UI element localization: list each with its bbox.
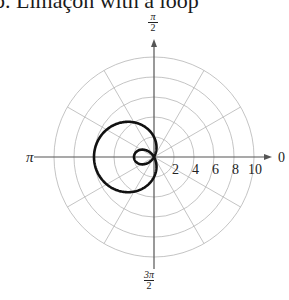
- angle-label-pi-over-2: π 2: [148, 12, 158, 33]
- grid-spoke: [104, 157, 154, 244]
- radial-tick-label: 2: [172, 162, 179, 177]
- grid-spoke: [104, 70, 154, 157]
- radial-tick-label: 8: [232, 162, 239, 177]
- arrow-up-icon: [151, 39, 157, 47]
- angle-label-0: 0: [278, 150, 285, 165]
- radial-tick-label: 6: [212, 162, 219, 177]
- radial-tick-label: 4: [192, 162, 199, 177]
- arrow-right-icon: [264, 154, 272, 160]
- angle-label-3pi-over-2: 3π 2: [144, 270, 154, 291]
- grid-spoke: [154, 70, 204, 157]
- grid-spoke: [154, 107, 241, 157]
- angle-label-pi: π: [26, 149, 34, 165]
- polar-plot: 2468100π: [0, 0, 289, 300]
- radial-tick-label: 10: [248, 162, 262, 177]
